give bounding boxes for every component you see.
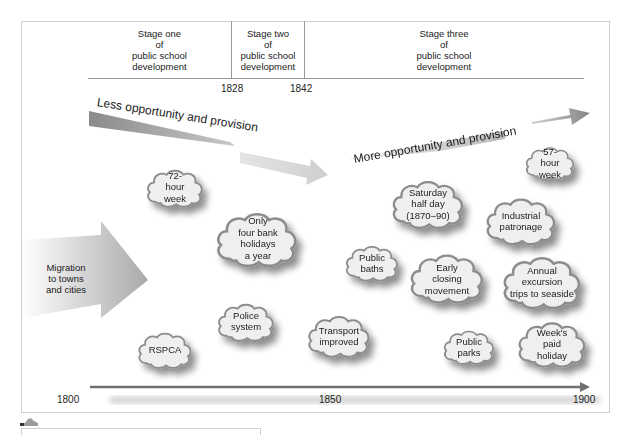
transition-arrow — [240, 152, 328, 185]
migration-line-1: Migration — [36, 262, 96, 273]
cloud-label-saturday-half-day: Saturday half day (1870–90) — [390, 172, 466, 236]
cloud-line: half day — [411, 198, 444, 210]
cloud-line: Annual — [527, 265, 557, 277]
cloud-line: hour — [165, 181, 184, 193]
cloud-label-annual-excursion: Annual excursion trips to seaside — [500, 256, 584, 308]
caption-box — [21, 428, 261, 435]
cloud-line: Public — [359, 252, 385, 264]
cloud-label-public-parks: Public parks — [442, 324, 496, 370]
cloud-line: trips to seaside — [510, 288, 574, 300]
cloud-label-police-system: Police system — [216, 298, 276, 344]
cloud-line: hour — [540, 157, 559, 169]
cloud-label-weeks-paid-holiday: Week's paid holiday — [516, 318, 588, 370]
cloud-line: holidays — [241, 238, 276, 250]
cloud-line: Saturday — [409, 187, 447, 199]
cloud-label-industrial-patronage: Industrial patronage — [484, 196, 558, 246]
cloud-line: baths — [360, 263, 383, 275]
cloud-line: RSPCA — [149, 344, 182, 356]
migration-line-3: and cities — [36, 284, 96, 295]
cloud-label-public-baths: Public baths — [344, 240, 400, 286]
cloud-label-57-hour-week: 57- hour week — [524, 136, 576, 190]
cloud-label-72-hour-week: 72- hour week — [145, 160, 205, 214]
cloud-label-bank-holidays: Only four bank holidays a year — [216, 206, 300, 270]
cloud-line: (1870–90) — [406, 210, 449, 222]
cloud-line: Only — [248, 215, 268, 227]
timeline-year-1800: 1800 — [57, 394, 79, 405]
cloud-line: Week's — [537, 327, 568, 339]
cloud-line: parks — [457, 347, 480, 359]
cloud-line: four bank — [238, 227, 278, 239]
cloud-line: patronage — [500, 221, 543, 233]
timeline-year-1900: 1900 — [573, 394, 595, 405]
timeline-shadow — [110, 396, 600, 404]
cloud-line: excursion — [522, 276, 563, 288]
cloud-line: Early — [436, 262, 458, 274]
cloud-line: paid — [543, 338, 561, 350]
small-mountain-icon — [20, 417, 40, 426]
cloud-line: week — [164, 193, 186, 205]
cloud-line: holiday — [537, 350, 567, 362]
cloud-line: week — [539, 169, 561, 181]
cloud-label-early-closing: Early closing movement — [408, 252, 486, 306]
cloud-line: system — [231, 321, 261, 333]
cloud-line: Transport — [319, 325, 359, 337]
more-opportunity-arrow-head — [532, 108, 590, 125]
migration-line-2: to towns — [36, 273, 96, 284]
timeline-year-1850: 1850 — [319, 394, 341, 405]
cloud-line: Police — [233, 310, 259, 322]
migration-label: Migration to towns and cities — [36, 262, 96, 295]
timeline-arrowhead — [580, 382, 590, 392]
cloud-line: Public — [456, 336, 482, 348]
cloud-label-rspca: RSPCA — [132, 332, 198, 368]
cloud-line: movement — [425, 285, 469, 297]
cloud-line: improved — [319, 336, 358, 348]
cloud-line: 57- — [543, 146, 557, 158]
cloud-line: Industrial — [502, 210, 541, 222]
cloud-line: a year — [245, 250, 271, 262]
cloud-label-transport: Transport improved — [306, 312, 372, 360]
cloud-line: closing — [432, 273, 462, 285]
cloud-line: 72- — [168, 170, 182, 182]
